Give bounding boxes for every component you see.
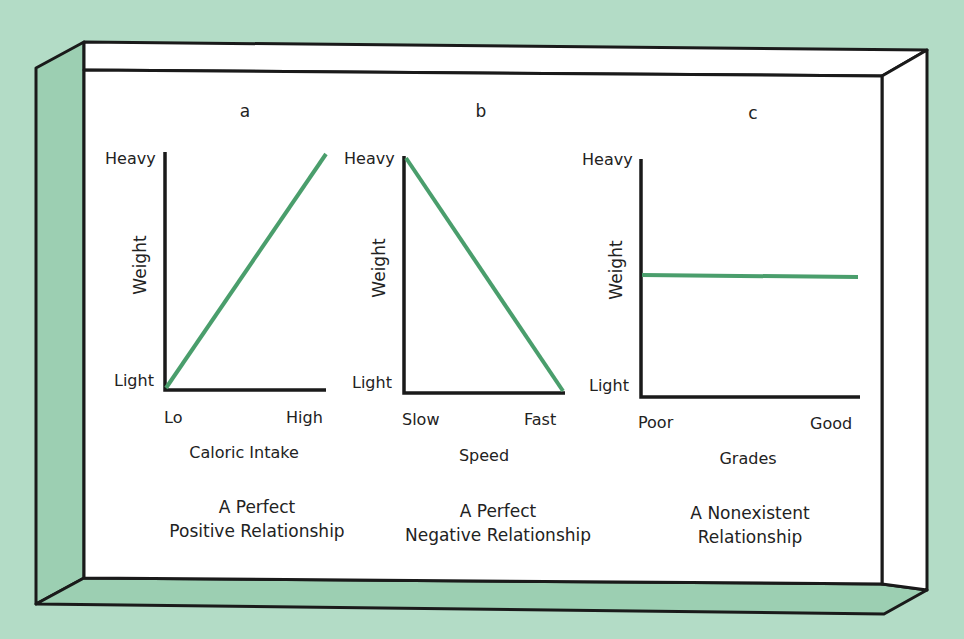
chart-b-y-tick-heavy: Heavy (344, 149, 395, 169)
chart-c-x-axis-label: Grades (688, 449, 808, 469)
chart-c-y-tick-heavy: Heavy (582, 150, 633, 170)
chart-a-x-tick-lo: Lo (164, 408, 182, 428)
chart-a-panel-label: a (230, 101, 260, 121)
chart-c-caption-line-1: A Nonexistent (650, 501, 850, 525)
chart-b-y-tick-light: Light (352, 373, 392, 393)
box-right-side (882, 50, 927, 590)
chart-c-caption-line-2: Relationship (650, 525, 850, 549)
chart-b-panel-label: b (466, 101, 496, 121)
chart-b-y-axis-label: Weight (369, 228, 389, 308)
chart-c-y-tick-light: Light (589, 376, 629, 396)
chart-b-x-tick-fast: Fast (524, 410, 556, 430)
chart-c-y-axis-label: Weight (606, 230, 626, 310)
chart-a-x-tick-high: High (286, 408, 323, 428)
chart-a-caption-line-2: Positive Relationship (152, 519, 362, 543)
chart-a-y-tick-heavy: Heavy (105, 149, 156, 169)
chart-c-data-line (642, 275, 858, 277)
chart-a-y-tick-light: Light (114, 371, 154, 391)
chart-c-panel-label: c (738, 103, 768, 123)
box-left-side (36, 42, 84, 604)
diagram-stage: a Heavy Light Weight Lo High Caloric Int… (0, 0, 964, 639)
chart-a-caption-line-1: A Perfect (157, 495, 357, 519)
chart-c-x-tick-poor: Poor (638, 413, 673, 433)
chart-a-x-axis-label: Caloric Intake (164, 443, 324, 463)
chart-b-x-axis-label: Speed (424, 446, 544, 466)
chart-a-y-axis-label: Weight (130, 225, 150, 305)
chart-b-x-tick-slow: Slow (402, 410, 439, 430)
chart-b-caption-line-1: A Perfect (398, 499, 598, 523)
chart-b-caption-line-2: Negative Relationship (388, 523, 608, 547)
chart-c-x-tick-good: Good (810, 414, 852, 434)
